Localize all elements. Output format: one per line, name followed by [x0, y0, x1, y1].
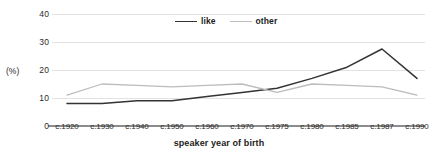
legend-label: like [201, 16, 216, 26]
y-tick-label: 40 [39, 10, 49, 19]
series-line-other [67, 84, 417, 95]
y-axis-label: (%) [6, 66, 19, 76]
y-tick-label: 30 [39, 38, 49, 47]
x-tick-label: c.1990 [394, 122, 438, 131]
x-axis-label: speaker year of birth [0, 138, 438, 148]
legend-entry-like[interactable]: like [175, 16, 216, 26]
chart-legend: likeother [175, 16, 277, 26]
legend-line-swatch-like [175, 21, 197, 22]
series-line-like [67, 49, 417, 104]
legend-entry-other[interactable]: other [230, 16, 278, 26]
line-chart: 010203040 (%) c.1920c.1930c.1940c.1950c.… [0, 0, 438, 157]
legend-line-swatch-other [230, 21, 252, 22]
y-tick-label: 20 [39, 66, 49, 75]
legend-label: other [256, 16, 278, 26]
data-series-group [67, 49, 417, 104]
y-tick-label: 10 [39, 94, 49, 103]
